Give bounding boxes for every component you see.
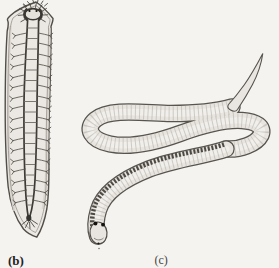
panel-b-label: (b) bbox=[8, 253, 24, 268]
ribbon-worm-head bbox=[89, 221, 108, 249]
eyespot-left bbox=[28, 10, 30, 12]
snout-dot bbox=[98, 248, 99, 249]
eyespot-right bbox=[35, 10, 37, 12]
worm-tail bbox=[228, 54, 263, 112]
worm-foreground-segment bbox=[92, 145, 226, 237]
eye-left bbox=[94, 222, 98, 226]
figure-svg: (b) (c) bbox=[0, 0, 279, 268]
panel-c-label: (c) bbox=[155, 253, 168, 267]
ribbon-worm-illustration bbox=[89, 54, 263, 250]
flatworm-illustration bbox=[5, 0, 53, 237]
worm-coil-loops bbox=[90, 107, 262, 149]
eye-right bbox=[101, 223, 105, 227]
figure-canvas: (b) (c) bbox=[0, 0, 279, 268]
proboscis-pore bbox=[97, 242, 99, 244]
